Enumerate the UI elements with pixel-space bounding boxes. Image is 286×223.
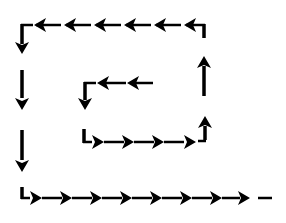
inner-top-row-arrows (78, 76, 153, 110)
inner-bottom-row-arrows (83, 129, 196, 149)
top-row-arrows (15, 18, 205, 54)
spiral-arrow-diagram (0, 0, 286, 223)
bottom-row-arrows (21, 187, 272, 205)
right-column-arrows (197, 56, 212, 141)
left-column-arrows (15, 70, 29, 172)
